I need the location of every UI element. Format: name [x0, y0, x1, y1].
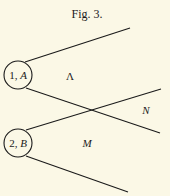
region-label-n: N	[141, 104, 150, 116]
region-label-lambda: Λ	[66, 70, 74, 82]
diagram-canvas: Fig. 3. 1, A 2, B Λ N M	[0, 0, 170, 196]
lower-boundary-line	[26, 156, 128, 192]
node-2-label: 2, B	[9, 137, 27, 149]
region-label-m: M	[81, 137, 92, 149]
figure-title: Fig. 3.	[71, 7, 102, 21]
node-1-label: 1, A	[9, 69, 27, 81]
upper-boundary-line	[25, 28, 130, 62]
line-from-node-1-crossing	[26, 88, 160, 133]
